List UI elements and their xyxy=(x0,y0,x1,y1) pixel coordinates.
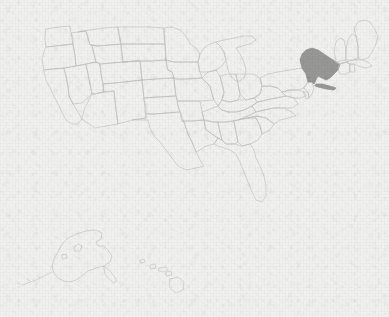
state-NC[interactable] xyxy=(238,108,296,124)
state-KS[interactable] xyxy=(142,78,176,98)
state-MA[interactable] xyxy=(336,60,372,68)
alaska-aleutian-chain xyxy=(17,272,52,285)
state-SD[interactable] xyxy=(121,44,166,62)
state-PA[interactable] xyxy=(260,68,308,92)
state-OH[interactable] xyxy=(236,74,262,100)
state-HI-bigisland[interactable] xyxy=(170,277,184,293)
state-AK[interactable] xyxy=(52,230,112,282)
state-ND[interactable] xyxy=(118,27,165,44)
state-NM[interactable] xyxy=(104,80,146,124)
state-ME[interactable] xyxy=(354,20,378,60)
state-NY-highlighted[interactable] xyxy=(300,48,340,84)
state-MN[interactable] xyxy=(164,27,200,62)
state-HI-oahu[interactable] xyxy=(150,264,156,269)
state-RI[interactable] xyxy=(350,64,355,72)
state-VT[interactable] xyxy=(334,38,346,62)
state-NY-long-island[interactable] xyxy=(315,84,336,90)
state-MO[interactable] xyxy=(174,78,214,101)
us-states-map xyxy=(0,0,389,317)
state-OR[interactable] xyxy=(42,44,76,70)
alaska-panhandle xyxy=(104,266,117,283)
state-AR[interactable] xyxy=(178,101,204,121)
state-TN[interactable] xyxy=(202,106,256,122)
state-OK[interactable] xyxy=(144,96,180,114)
state-IA[interactable] xyxy=(166,60,202,79)
state-FL[interactable] xyxy=(214,138,266,202)
state-WA[interactable] xyxy=(45,26,73,47)
state-LA[interactable] xyxy=(182,120,218,152)
state-ID[interactable] xyxy=(71,31,96,66)
state-SC[interactable] xyxy=(248,116,274,134)
state-HI-molokai-maui[interactable] xyxy=(159,267,172,276)
state-AL[interactable] xyxy=(218,121,238,144)
state-NV[interactable] xyxy=(64,64,92,104)
state-KY[interactable] xyxy=(218,98,258,112)
state-UT[interactable] xyxy=(86,62,104,94)
state-MT[interactable] xyxy=(78,27,121,46)
state-WY[interactable] xyxy=(92,44,123,64)
state-WV[interactable] xyxy=(254,86,286,102)
state-WI[interactable] xyxy=(198,42,226,72)
state-AZ[interactable] xyxy=(82,91,118,128)
us-locator-map-figure xyxy=(0,0,389,317)
state-HI-kauai[interactable] xyxy=(140,259,145,263)
state-CA[interactable] xyxy=(44,68,82,124)
